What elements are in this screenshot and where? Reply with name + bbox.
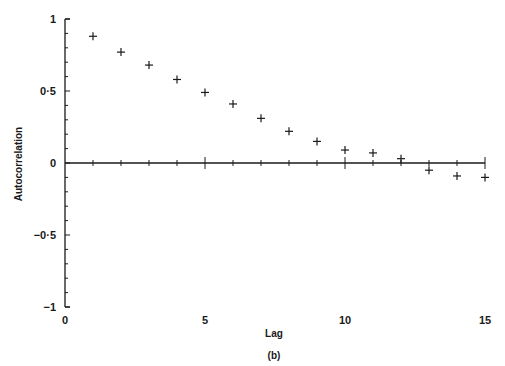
y-tick-label: −1 bbox=[43, 301, 56, 313]
data-point-marker bbox=[145, 61, 153, 69]
data-point-marker bbox=[257, 114, 265, 122]
data-point-marker bbox=[425, 166, 433, 174]
data-point-marker bbox=[397, 155, 405, 163]
data-point-marker bbox=[285, 127, 293, 135]
data-point-marker bbox=[229, 100, 237, 108]
y-tick-label: 0·5 bbox=[40, 85, 56, 97]
data-point-marker bbox=[341, 146, 349, 154]
y-tick-label: 1 bbox=[50, 13, 56, 25]
data-point-marker bbox=[117, 48, 125, 56]
tick-labels: 10·50−0·5−1051015 bbox=[34, 13, 491, 326]
data-point-marker bbox=[89, 32, 97, 40]
y-tick-label: −0·5 bbox=[34, 229, 56, 241]
panel-label: (b) bbox=[268, 350, 281, 361]
x-axis-title: Lag bbox=[265, 328, 283, 339]
y-tick-label: 0 bbox=[50, 157, 56, 169]
y-axis-title: Autocorrelation bbox=[13, 127, 24, 201]
x-tick-label: 10 bbox=[339, 314, 351, 326]
x-tick-label: 0 bbox=[62, 314, 68, 326]
data-point-marker bbox=[481, 173, 489, 181]
data-point-marker bbox=[173, 75, 181, 83]
x-axis-zero-line bbox=[65, 157, 485, 169]
data-points bbox=[89, 32, 489, 181]
x-tick-label: 15 bbox=[479, 314, 491, 326]
data-point-marker bbox=[369, 149, 377, 157]
data-point-marker bbox=[313, 137, 321, 145]
data-point-marker bbox=[201, 88, 209, 96]
autocorrelation-chart: 10·50−0·5−1051015 Autocorrelation Lag (b… bbox=[0, 0, 505, 366]
data-point-marker bbox=[453, 172, 461, 180]
x-tick-label: 5 bbox=[202, 314, 208, 326]
